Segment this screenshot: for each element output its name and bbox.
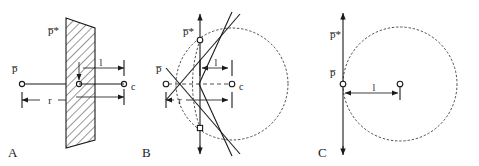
point-p-bar-star-b: [197, 37, 203, 43]
label-p-bar-b: p̅: [156, 62, 162, 74]
label-p-bar-c: p̅: [330, 66, 336, 78]
label-r-b: r: [178, 95, 182, 106]
label-p-bar-star-c: p̅*: [330, 28, 341, 40]
label-l-b: l: [215, 57, 218, 68]
point-p-bar-a: [19, 81, 24, 86]
label-r-a: r: [48, 95, 52, 106]
point-p-bar-c: [340, 81, 346, 87]
cone-ray-upper-b: [199, 12, 232, 84]
tangent-line-upper-b: [166, 14, 240, 100]
tangent-line-lower-b: [166, 68, 240, 154]
label-c-a: c: [131, 81, 136, 92]
panel-letter-a: A: [8, 145, 18, 160]
point-lower-intersect-b: [197, 125, 202, 130]
point-c-b: [229, 81, 235, 87]
label-l-c: l: [373, 82, 376, 93]
cone-ray-lower-b: [199, 84, 232, 156]
point-p-bar-b: [163, 81, 169, 87]
point-center-c: [397, 81, 403, 87]
label-p-bar-star-a: p̅*: [48, 24, 59, 36]
label-c-b: c: [239, 81, 244, 92]
panel-letter-b: B: [142, 145, 151, 160]
diagram-svg: p̅ p̅* l c r A: [0, 0, 479, 166]
label-p-bar-a: p̅: [12, 62, 18, 74]
panel-letter-c: C: [318, 145, 327, 160]
panel-c: p̅* p̅ l C: [318, 13, 457, 160]
label-p-bar-star-b: p̅*: [183, 25, 194, 37]
panel-a: p̅ p̅* l c r A: [8, 18, 136, 160]
panel-b: p̅ p̅* c l r B: [142, 12, 288, 160]
label-l-a: l: [100, 57, 103, 68]
figure-canvas: p̅ p̅* l c r A: [0, 0, 479, 166]
